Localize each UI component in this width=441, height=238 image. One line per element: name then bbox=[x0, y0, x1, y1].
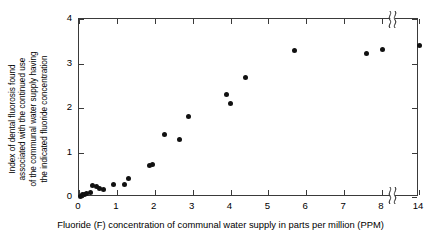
x-axis-tick-top bbox=[193, 19, 194, 24]
data-point bbox=[243, 75, 248, 80]
data-point bbox=[88, 190, 93, 195]
data-point bbox=[162, 132, 167, 137]
data-point bbox=[417, 43, 422, 48]
x-axis-break-top-icon bbox=[386, 11, 400, 28]
data-point bbox=[150, 162, 155, 167]
y-axis-tick-right bbox=[412, 197, 417, 198]
x-axis-tick-top bbox=[155, 19, 156, 24]
y-axis-tick-label: 4 bbox=[56, 12, 72, 23]
y-axis-title-line-4: the indicated fluoride concentration bbox=[40, 51, 51, 186]
y-axis-tick-right bbox=[412, 19, 417, 20]
x-axis-tick-label: 2 bbox=[139, 200, 169, 211]
y-axis-tick-label: 3 bbox=[56, 57, 72, 68]
x-axis-tick-label: 5 bbox=[252, 200, 282, 211]
data-point bbox=[122, 182, 127, 187]
x-axis-tick-top bbox=[419, 19, 420, 24]
data-point bbox=[101, 187, 106, 192]
y-axis-title: Index of dental fluorosis found associat… bbox=[0, 0, 58, 238]
data-point bbox=[126, 176, 131, 181]
data-point bbox=[111, 182, 116, 187]
x-axis-tick-top bbox=[344, 19, 345, 24]
y-axis-tick-right bbox=[412, 64, 417, 65]
x-axis-tick bbox=[419, 190, 420, 195]
y-axis-title-line-3: of the communal water supply having bbox=[29, 51, 40, 186]
y-axis-tick bbox=[79, 153, 84, 154]
x-axis-tick bbox=[155, 190, 156, 195]
data-point bbox=[228, 101, 233, 106]
y-axis-title-line-1: Index of dental fluorosis found bbox=[8, 51, 19, 186]
x-axis-tick-label: 4 bbox=[215, 200, 245, 211]
x-axis-tick bbox=[268, 190, 269, 195]
x-axis-tick-top bbox=[117, 19, 118, 24]
data-point bbox=[177, 137, 182, 142]
x-axis-tick-top bbox=[306, 19, 307, 24]
figure-container: Index of dental fluorosis found associat… bbox=[0, 0, 441, 238]
x-axis-tick-label: 3 bbox=[177, 200, 207, 211]
y-axis-tick bbox=[79, 19, 84, 20]
x-axis-tick-label: 14 bbox=[403, 200, 433, 211]
x-axis-tick-top bbox=[268, 19, 269, 24]
x-axis-tick bbox=[231, 190, 232, 195]
y-axis-tick-label: 0 bbox=[56, 190, 72, 201]
data-point bbox=[364, 51, 369, 56]
x-axis-tick bbox=[117, 190, 118, 195]
data-point bbox=[186, 114, 191, 119]
y-axis-title-line-2: associated with the continued use bbox=[18, 51, 29, 186]
x-axis-tick-label: 6 bbox=[290, 200, 320, 211]
y-axis-tick bbox=[79, 64, 84, 65]
x-axis-title: Fluoride (F) concentration of communal w… bbox=[0, 219, 441, 230]
y-axis-tick-label: 1 bbox=[56, 146, 72, 157]
x-axis-tick-label: 0 bbox=[63, 200, 93, 211]
x-axis-tick bbox=[306, 190, 307, 195]
x-axis-tick bbox=[193, 190, 194, 195]
y-axis-tick-right bbox=[412, 108, 417, 109]
y-axis-tick-label: 2 bbox=[56, 101, 72, 112]
data-point bbox=[380, 47, 385, 52]
x-axis-tick-top bbox=[231, 19, 232, 24]
y-axis-tick bbox=[79, 108, 84, 109]
plot-area bbox=[78, 18, 418, 196]
x-axis-tick-label: 1 bbox=[101, 200, 131, 211]
y-axis-tick-right bbox=[412, 153, 417, 154]
x-axis-tick-top bbox=[382, 19, 383, 24]
data-point bbox=[292, 48, 297, 53]
data-point bbox=[224, 92, 229, 97]
x-axis-tick-label: 8 bbox=[366, 200, 396, 211]
x-axis-tick-label: 7 bbox=[328, 200, 358, 211]
x-axis-tick bbox=[344, 190, 345, 195]
x-axis-tick bbox=[382, 190, 383, 195]
